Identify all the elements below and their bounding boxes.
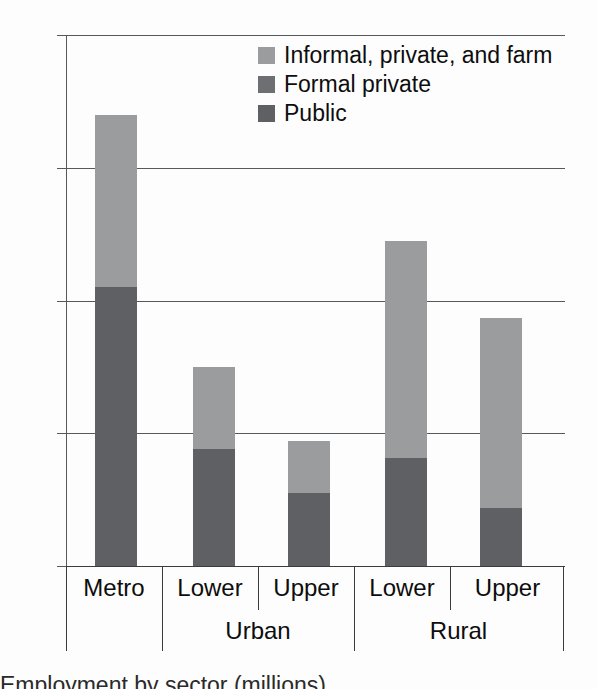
legend-swatch-icon xyxy=(258,105,275,122)
gridline-4 xyxy=(66,301,565,302)
x-group-label-rural: Rural xyxy=(354,610,563,651)
x-label-urban-lower: Lower xyxy=(162,566,258,610)
y-tick-mark-2 xyxy=(57,433,66,434)
y-tick-mark-6 xyxy=(57,168,66,169)
bar-segment-informal xyxy=(385,241,427,459)
x-label-urban-upper: Upper xyxy=(258,566,354,610)
bar-segment-informal xyxy=(95,115,137,288)
bar-urban-upper[interactable] xyxy=(288,441,330,566)
x-divider-rural-inner xyxy=(450,566,451,610)
x-label-rural-upper: Upper xyxy=(450,566,565,610)
bar-segment-public xyxy=(480,508,522,566)
x-axis-category-row: Metro Lower Upper Lower Upper xyxy=(66,566,565,610)
x-label-metro: Metro xyxy=(66,566,162,610)
legend-label: Informal, private, and farm xyxy=(284,44,552,67)
y-tick-mark-0 xyxy=(57,566,66,567)
x-group-label-urban: Urban xyxy=(162,610,354,651)
y-tick-mark-8 xyxy=(57,35,66,36)
bar-segment-public xyxy=(288,493,330,566)
x-label-rural-lower: Lower xyxy=(354,566,450,610)
x-axis-group-row: Urban Rural xyxy=(66,610,565,651)
legend-swatch-icon xyxy=(258,76,275,93)
bar-segment-public xyxy=(95,287,137,566)
bar-segment-informal xyxy=(480,318,522,507)
legend-label: Formal private xyxy=(284,73,431,96)
chart-page: 8 6 4 2 0 xyxy=(0,0,597,689)
legend: Informal, private, and farm Formal priva… xyxy=(258,42,552,126)
gridline-8 xyxy=(66,35,565,36)
bar-segment-informal xyxy=(193,367,235,449)
bar-rural-upper[interactable] xyxy=(480,318,522,566)
bar-rural-lower[interactable] xyxy=(385,241,427,566)
x-divider-urban-inner xyxy=(258,566,259,610)
bar-segment-public xyxy=(385,458,427,566)
bar-urban-lower[interactable] xyxy=(193,367,235,566)
bar-segment-informal xyxy=(288,441,330,493)
plot-area: 8 6 4 2 0 xyxy=(66,35,565,566)
figure-caption: Employment by sector (millions) xyxy=(0,672,597,689)
gridline-6 xyxy=(66,168,565,169)
y-tick-mark-4 xyxy=(57,301,66,302)
legend-item-public[interactable]: Public xyxy=(258,100,552,126)
x-axis-band: Metro Lower Upper Lower Upper Urban Rura… xyxy=(66,566,565,651)
legend-item-informal[interactable]: Informal, private, and farm xyxy=(258,42,552,68)
legend-label: Public xyxy=(284,102,347,125)
legend-swatch-icon xyxy=(258,47,275,64)
bar-segment-public xyxy=(193,449,235,566)
bar-metro[interactable] xyxy=(95,115,137,566)
legend-item-formal-private[interactable]: Formal private xyxy=(258,71,552,97)
